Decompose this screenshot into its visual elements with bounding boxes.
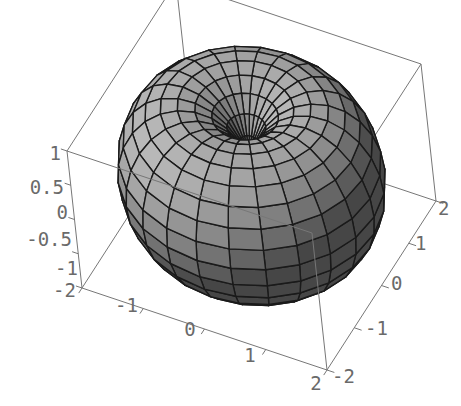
- x-tick-label: 2: [310, 372, 321, 394]
- z-tick-label: 0: [57, 201, 68, 223]
- surface-patch: [233, 284, 269, 297]
- x-tick-label: 0: [184, 318, 195, 340]
- y-tick-label: -2: [332, 365, 355, 387]
- tick-mark: [61, 149, 67, 151]
- torus-3d-plot: 1 0.5 0 -0.5 -1 -2 -1 0 1 2 -2 -1 0 1 2: [0, 0, 461, 406]
- surface-patch: [237, 61, 255, 76]
- surface-patch: [228, 206, 261, 229]
- tick-mark: [76, 286, 82, 288]
- tick-mark: [201, 329, 204, 334]
- tick-mark: [262, 350, 265, 355]
- y-tick-label: -1: [365, 317, 388, 339]
- tick-mark: [65, 183, 71, 185]
- tick-mark: [79, 288, 82, 293]
- y-tick-label: 0: [391, 272, 402, 294]
- surface-patch: [231, 268, 268, 286]
- box-edge: [421, 64, 436, 201]
- surface-patch: [256, 183, 288, 207]
- z-tick-label: -0.5: [26, 228, 72, 250]
- surface-patch: [231, 154, 253, 169]
- tick-mark: [140, 309, 143, 314]
- surface-patch: [228, 228, 263, 251]
- x-tick-label: -2: [53, 279, 76, 301]
- surface-patch: [229, 249, 266, 270]
- y-tick-label: 2: [438, 197, 449, 219]
- z-tick-label: 0.5: [30, 176, 64, 198]
- z-axis-labels: 1 0.5 0 -0.5 -1: [26, 142, 78, 279]
- tick-mark: [324, 370, 327, 375]
- tick-mark: [72, 252, 78, 254]
- x-tick-label: -1: [115, 294, 138, 316]
- y-tick-label: 1: [415, 232, 426, 254]
- surface-patch: [229, 168, 255, 187]
- surface-patch: [235, 51, 257, 62]
- torus-surface: [118, 46, 385, 305]
- surface-patch: [228, 186, 258, 208]
- z-tick-label: -1: [55, 257, 78, 279]
- z-tick-label: 1: [50, 142, 61, 164]
- tick-mark: [68, 217, 74, 219]
- tick-mark: [354, 328, 361, 330]
- tick-mark: [382, 286, 389, 288]
- x-tick-label: 1: [244, 344, 255, 366]
